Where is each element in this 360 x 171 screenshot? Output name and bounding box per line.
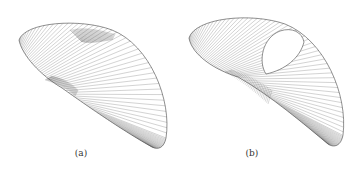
panel-a-surface xyxy=(19,23,167,148)
caption-b: (b) xyxy=(237,148,267,158)
panel-b-surface xyxy=(189,18,344,146)
teardrop-hole xyxy=(262,30,304,74)
caption-a: (a) xyxy=(66,148,96,158)
figure-canvas xyxy=(0,0,360,171)
